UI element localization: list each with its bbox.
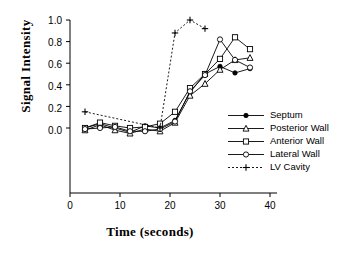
marker-open-square — [247, 47, 252, 52]
data-point-open-square — [217, 56, 222, 61]
data-point-open-circle — [187, 89, 192, 94]
marker-filled-circle — [244, 113, 248, 117]
legend-item-anterior-wall[interactable]: Anterior Wall — [226, 134, 352, 147]
data-point-plus — [243, 164, 249, 170]
marker-open-square — [243, 139, 248, 144]
data-point-filled-circle — [233, 71, 237, 75]
legend-item-septum[interactable]: Septum — [226, 108, 352, 121]
marker-open-circle — [97, 125, 102, 130]
data-point-plus — [82, 109, 88, 115]
marker-open-circle — [82, 126, 87, 131]
data-point-open-circle — [97, 125, 102, 130]
marker-open-circle — [112, 124, 117, 129]
legend-symbol-plus — [226, 160, 266, 173]
marker-open-square — [97, 120, 102, 125]
marker-open-square — [232, 35, 237, 40]
data-point-open-circle — [247, 65, 252, 70]
marker-filled-circle — [233, 71, 237, 75]
series-line — [85, 20, 205, 128]
data-point-open-square — [247, 47, 252, 52]
data-point-open-circle — [127, 129, 132, 134]
legend-symbol-filled-circle — [226, 108, 266, 121]
marker-open-circle — [127, 129, 132, 134]
data-point-open-circle — [217, 37, 222, 42]
y-tick-marks — [66, 20, 70, 128]
series-lv-cavity — [82, 17, 208, 131]
data-point-open-square — [97, 120, 102, 125]
marker-open-square — [217, 56, 222, 61]
marker-open-circle — [247, 65, 252, 70]
marker-open-circle — [243, 152, 248, 157]
data-point-open-circle — [172, 119, 177, 124]
data-point-open-circle — [232, 57, 237, 62]
legend-label: Posterior Wall — [266, 121, 329, 134]
data-point-open-circle — [112, 124, 117, 129]
data-point-open-circle — [202, 72, 207, 77]
legend-symbol-open-circle — [226, 147, 266, 160]
marker-open-triangle — [247, 55, 253, 61]
data-point-open-circle — [82, 126, 87, 131]
chart-figure: Signal Intensity 1.0 0.8 0.6 0.4 0.2 0.0… — [0, 0, 355, 256]
data-point-open-square — [243, 139, 248, 144]
legend-symbol-open-square — [226, 134, 266, 147]
chart-legend: SeptumPosterior WallAnterior WallLateral… — [226, 108, 352, 173]
legend-item-lv-cavity[interactable]: LV Cavity — [226, 160, 352, 173]
legend-label: Lateral Wall — [266, 147, 320, 160]
legend-item-posterior-wall[interactable]: Posterior Wall — [226, 121, 352, 134]
x-tick-marks — [70, 193, 270, 197]
marker-open-circle — [187, 89, 192, 94]
legend-label: Septum — [266, 108, 303, 121]
legend-label: LV Cavity — [266, 160, 310, 173]
legend-label: Anterior Wall — [266, 134, 324, 147]
data-point-filled-circle — [244, 113, 248, 117]
data-point-plus — [202, 25, 208, 31]
marker-open-circle — [142, 129, 147, 134]
data-point-open-square — [232, 35, 237, 40]
marker-open-circle — [172, 119, 177, 124]
legend-symbol-open-triangle — [226, 121, 266, 134]
data-point-open-square — [172, 109, 177, 114]
marker-open-circle — [232, 57, 237, 62]
legend-item-lateral-wall[interactable]: Lateral Wall — [226, 147, 352, 160]
marker-open-circle — [202, 72, 207, 77]
marker-open-circle — [217, 37, 222, 42]
data-point-open-triangle — [247, 55, 253, 61]
marker-open-square — [172, 109, 177, 114]
data-point-open-circle — [142, 129, 147, 134]
data-point-open-circle — [243, 152, 248, 157]
